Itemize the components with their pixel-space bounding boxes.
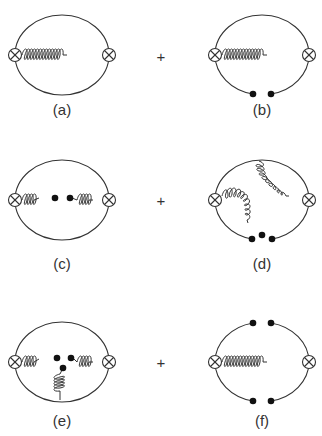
gluon-line (222, 356, 267, 367)
quark-loop (215, 15, 309, 94)
quark-loop (15, 322, 109, 402)
plus-operator: + (157, 48, 166, 65)
gluon-line (22, 356, 39, 367)
condensate-dot-icon (68, 355, 75, 362)
condensate-dot-icon (60, 365, 67, 372)
vertex-icon (9, 49, 22, 62)
quark-loop (15, 160, 109, 240)
feynman-diagrams (0, 0, 322, 436)
gluon-line (222, 188, 250, 223)
condensate-dot-icon (52, 195, 59, 202)
gluon-line (22, 49, 67, 60)
diagram-e (9, 322, 116, 402)
quark-loop (215, 323, 309, 401)
quark-loop (215, 160, 309, 239)
panel-label-a: (a) (53, 101, 71, 118)
vertex-icon (103, 49, 116, 62)
plus-operator: + (157, 192, 166, 209)
condensate-dot-icon (269, 236, 276, 243)
panel-label-f: (f) (255, 412, 269, 429)
diagram-a (9, 15, 116, 95)
gluon-line (256, 161, 289, 196)
diagram-b (209, 15, 316, 97)
gluon-line (54, 370, 65, 400)
plus-operator: + (157, 354, 166, 371)
panel-label-b: (b) (253, 101, 271, 118)
condensate-dot-icon (54, 355, 61, 362)
diagram-c (9, 160, 116, 240)
panel-label-c: (c) (53, 255, 71, 272)
condensate-dot-icon (268, 398, 275, 405)
condensate-dot-icon (250, 320, 257, 327)
quark-loop (15, 15, 109, 95)
gluon-line (73, 356, 93, 367)
condensate-dot-icon (268, 91, 275, 98)
gluon-line (72, 194, 93, 205)
condensate-dot-icon (259, 232, 266, 239)
panel-label-d: (d) (253, 255, 271, 272)
condensate-dot-icon (249, 236, 256, 243)
condensate-dot-icon (250, 91, 257, 98)
diagram-f (209, 320, 316, 405)
gluon-line (22, 194, 39, 205)
condensate-dot-icon (268, 320, 275, 327)
diagram-d (209, 160, 316, 242)
gluon-line (222, 49, 267, 60)
panel-label-e: (e) (53, 412, 71, 429)
condensate-dot-icon (250, 398, 257, 405)
condensate-dot-icon (67, 195, 74, 202)
